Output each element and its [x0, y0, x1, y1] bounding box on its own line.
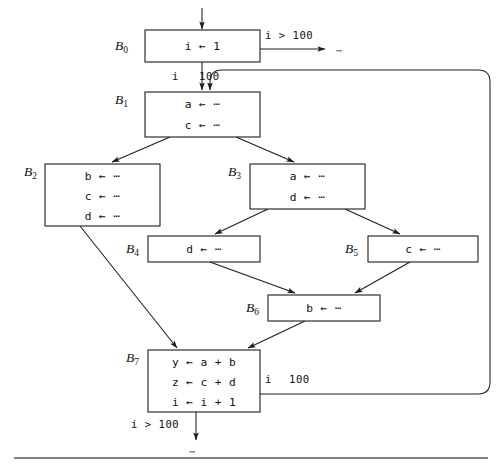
block-B2-stmt-2: d ← ⋯ — [85, 210, 121, 223]
edge-label-b7-back-i: i — [265, 373, 272, 385]
block-B3-label: B3 — [228, 164, 241, 181]
ellipsis-b0-exit: ⋯ — [336, 44, 342, 56]
figure-canvas: B0 i ← 1 B1 a ← ⋯ c ← ⋯ B2 b ← ⋯ c ← ⋯ d… — [0, 0, 502, 469]
block-B2-stmt-0: b ← ⋯ — [85, 170, 121, 183]
block-B7-label: B7 — [126, 350, 139, 367]
edge-b6-to-b7 — [248, 321, 305, 348]
edge-b3-to-b5 — [345, 209, 400, 234]
block-B3-stmt-1: d ← ⋯ — [290, 191, 326, 204]
block-B4-label: B4 — [126, 241, 139, 258]
block-B6-stmt-0: b ← ⋯ — [306, 302, 342, 315]
block-B7-stmt-2: i ← i + 1 — [172, 396, 236, 409]
block-B0[interactable]: B0 i ← 1 — [115, 30, 260, 62]
edge-b1-to-b2 — [112, 137, 170, 162]
block-B3-stmt-0: a ← ⋯ — [290, 170, 326, 183]
block-B2-label: B2 — [24, 164, 37, 181]
block-B7[interactable]: B7 y ← a + b z ← c + d i ← i + 1 — [126, 350, 260, 412]
block-B7-stmt-1: z ← c + d — [172, 376, 236, 389]
block-B6-label: B6 — [246, 300, 259, 317]
block-B3[interactable]: B3 a ← ⋯ d ← ⋯ — [228, 164, 365, 209]
edge-label-b7-exit-gt: i > 100 — [131, 418, 179, 430]
control-flow-graph: B0 i ← 1 B1 a ← ⋯ c ← ⋯ B2 b ← ⋯ c ← ⋯ d… — [0, 0, 502, 469]
block-B5-stmt-0: c ← ⋯ — [405, 243, 441, 256]
edge-b3-to-b4 — [215, 209, 268, 234]
block-B1-stmt-0: a ← ⋯ — [185, 98, 221, 111]
edge-label-b7-back-100: 100 — [289, 373, 310, 385]
block-B5[interactable]: B5 c ← ⋯ — [345, 236, 478, 262]
block-B2-stmt-1: c ← ⋯ — [85, 190, 121, 203]
block-B0-stmt-0: i ← 1 — [185, 40, 221, 53]
block-B6[interactable]: B6 b ← ⋯ — [246, 295, 380, 321]
block-B2[interactable]: B2 b ← ⋯ c ← ⋯ d ← ⋯ — [24, 164, 160, 226]
block-B1[interactable]: B1 a ← ⋯ c ← ⋯ — [115, 92, 260, 137]
edge-label-b0-loop-100: 100 — [199, 70, 220, 82]
edge-b4-to-b6 — [210, 262, 295, 293]
block-B5-label: B5 — [345, 241, 358, 258]
ellipsis-b7-exit: ⋯ — [189, 445, 195, 457]
block-B0-label: B0 — [115, 38, 128, 55]
edge-b1-to-b3 — [236, 137, 294, 162]
block-B4-stmt-0: d ← ⋯ — [186, 243, 222, 256]
edge-label-b0-loop-i: i — [172, 70, 179, 82]
block-B1-stmt-1: c ← ⋯ — [185, 119, 221, 132]
block-B4[interactable]: B4 d ← ⋯ — [126, 236, 260, 262]
edge-label-b0-exit-gt: i > 100 — [265, 29, 313, 41]
block-B7-stmt-0: y ← a + b — [172, 356, 236, 369]
block-B1-label: B1 — [115, 92, 128, 109]
edge-b5-to-b6 — [355, 262, 410, 293]
